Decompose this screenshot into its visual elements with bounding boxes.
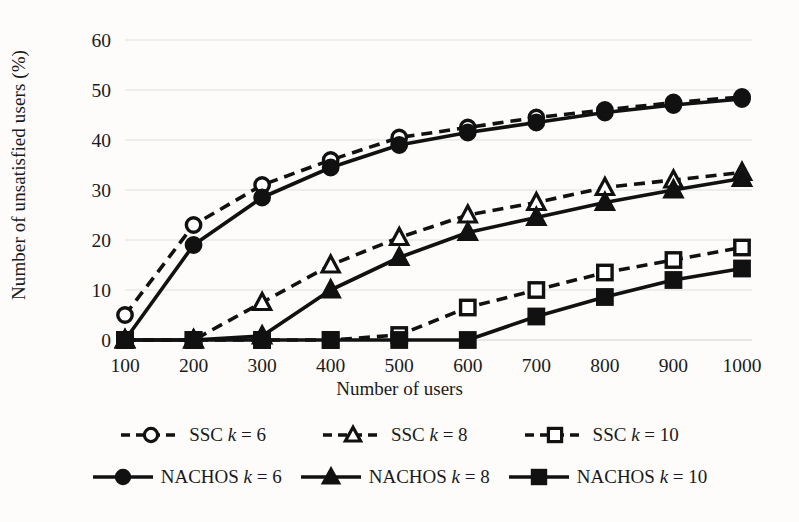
y-tick-label: 10 <box>92 280 112 301</box>
series-line-ssc-k-6 <box>125 97 742 315</box>
legend-item-ssc-8[interactable]: SSC k = 8 <box>322 424 468 446</box>
legend-item-label: SSC k = 8 <box>391 424 468 446</box>
legend-label-name: NACHOS <box>577 466 660 487</box>
data-point-marker-ssc-k-10 <box>598 265 612 279</box>
data-point-marker-ssc-k-10 <box>461 300 475 314</box>
x-tick-label: 100 <box>110 355 139 376</box>
legend-symbol-triangle-open <box>322 424 384 446</box>
data-point-marker-ssc-k-8 <box>391 229 408 245</box>
data-point-marker-ssc-k-8 <box>459 206 476 222</box>
data-point-marker-nachos-k-10 <box>666 273 680 287</box>
legend-label-name: SSC <box>189 424 228 445</box>
legend-label-name: SSC <box>391 424 430 445</box>
gridlines-group <box>125 40 752 340</box>
y-tick-label: 0 <box>101 330 111 351</box>
series-line-nachos-k-10 <box>125 269 742 341</box>
legend-label-value: = 8 <box>460 466 490 487</box>
y-tick-label: 60 <box>92 30 112 51</box>
x-tick-label: 900 <box>659 355 688 376</box>
data-point-marker-nachos-k-10 <box>186 333 200 347</box>
legend-item-nachos-10[interactable]: NACHOS k = 10 <box>508 466 708 488</box>
legend-row-ssc: SSC k = 6SSC k = 8SSC k = 10 <box>0 414 799 456</box>
legend-symbol-circle-filled <box>92 466 154 488</box>
x-tick-label: 600 <box>453 355 482 376</box>
series-line-nachos-k-8 <box>125 179 742 341</box>
data-point-marker-ssc-k-8 <box>254 294 271 310</box>
x-axis-tick-labels: 1002003004005006007008009001000 <box>110 355 761 376</box>
data-point-marker-nachos-k-10 <box>118 333 132 347</box>
series-markers-group <box>116 90 750 347</box>
legend-label-value: = 8 <box>438 424 468 445</box>
y-axis-tick-labels: 0102030405060 <box>92 30 112 351</box>
x-tick-label: 800 <box>590 355 619 376</box>
data-point-marker-nachos-k-10 <box>735 261 749 275</box>
legend-label-k: k <box>244 466 252 487</box>
data-point-marker-nachos-k-6 <box>255 190 269 204</box>
legend-item-label: SSC k = 6 <box>189 424 266 446</box>
data-point-marker-nachos-k-10 <box>461 333 475 347</box>
data-point-marker-nachos-k-10 <box>392 333 406 347</box>
series-lines-group <box>125 97 742 340</box>
legend-label-k: k <box>429 424 437 445</box>
data-point-marker-nachos-k-6 <box>392 138 406 152</box>
data-point-marker-nachos-k-6 <box>323 160 337 174</box>
data-point-marker-nachos-k-6 <box>461 125 475 139</box>
series-line-nachos-k-6 <box>125 99 742 340</box>
legend-label-value: = 10 <box>640 424 679 445</box>
legend-item-nachos-8[interactable]: NACHOS k = 8 <box>300 466 490 488</box>
legend-symbol-square-open <box>524 424 586 446</box>
data-point-marker-nachos-k-10 <box>598 290 612 304</box>
data-point-marker-nachos-k-6 <box>529 115 543 129</box>
data-point-marker-nachos-k-10 <box>255 333 269 347</box>
x-tick-label: 200 <box>179 355 208 376</box>
legend-label-k: k <box>452 466 460 487</box>
legend-symbol-circle-open <box>120 424 182 446</box>
line-chart-svg: 0102030405060 10020030040050060070080090… <box>0 0 799 430</box>
legend-label-value: = 6 <box>236 424 266 445</box>
y-tick-label: 20 <box>92 230 112 251</box>
data-point-marker-nachos-k-6 <box>598 105 612 119</box>
y-tick-label: 50 <box>92 80 112 101</box>
legend-label-k: k <box>660 466 668 487</box>
data-point-marker-ssc-k-10 <box>735 240 749 254</box>
legend-label-k: k <box>631 424 639 445</box>
data-point-marker-nachos-k-10 <box>323 333 337 347</box>
legend-label-name: NACHOS <box>161 466 244 487</box>
legend-item-label: NACHOS k = 10 <box>577 466 708 488</box>
legend-label-k: k <box>228 424 236 445</box>
legend-item-label: NACHOS k = 6 <box>161 466 282 488</box>
data-point-marker-ssc-k-8 <box>322 256 339 272</box>
legend-label-value: = 10 <box>668 466 707 487</box>
legend-label-name: NACHOS <box>369 466 452 487</box>
legend-item-ssc-10[interactable]: SSC k = 10 <box>524 424 679 446</box>
data-point-marker-nachos-k-10 <box>529 309 543 323</box>
x-tick-label: 500 <box>385 355 414 376</box>
data-point-marker-ssc-k-10 <box>666 253 680 267</box>
data-point-marker-ssc-k-6 <box>118 308 132 322</box>
legend-label-name: SSC <box>593 424 632 445</box>
series-line-ssc-k-8 <box>125 173 742 341</box>
data-point-marker-nachos-k-8 <box>322 281 339 297</box>
legend-item-ssc-6[interactable]: SSC k = 6 <box>120 424 266 446</box>
data-point-marker-nachos-k-8 <box>459 224 476 240</box>
x-tick-label: 1000 <box>723 355 762 376</box>
legend-symbol-triangle-filled <box>300 466 362 488</box>
chart-legend: SSC k = 6SSC k = 8SSC k = 10 NACHOS k = … <box>0 414 799 514</box>
legend-item-label: NACHOS k = 8 <box>369 466 490 488</box>
data-point-marker-ssc-k-6 <box>186 218 200 232</box>
x-tick-label: 400 <box>316 355 345 376</box>
legend-row-nachos: NACHOS k = 6NACHOS k = 8NACHOS k = 10 <box>0 456 799 498</box>
legend-item-nachos-6[interactable]: NACHOS k = 6 <box>92 466 282 488</box>
x-tick-label: 700 <box>522 355 551 376</box>
data-point-marker-nachos-k-6 <box>735 92 749 106</box>
legend-item-label: SSC k = 10 <box>593 424 679 446</box>
legend-label-value: = 6 <box>252 466 282 487</box>
figure-container: 0102030405060 10020030040050060070080090… <box>0 0 799 522</box>
data-point-marker-ssc-k-10 <box>529 283 543 297</box>
data-point-marker-nachos-k-8 <box>391 249 408 265</box>
y-tick-label: 30 <box>92 180 112 201</box>
data-point-marker-nachos-k-6 <box>666 98 680 112</box>
y-tick-label: 40 <box>92 130 112 151</box>
x-axis-title: Number of users <box>0 378 799 400</box>
plot-area: 0102030405060 10020030040050060070080090… <box>0 0 799 430</box>
